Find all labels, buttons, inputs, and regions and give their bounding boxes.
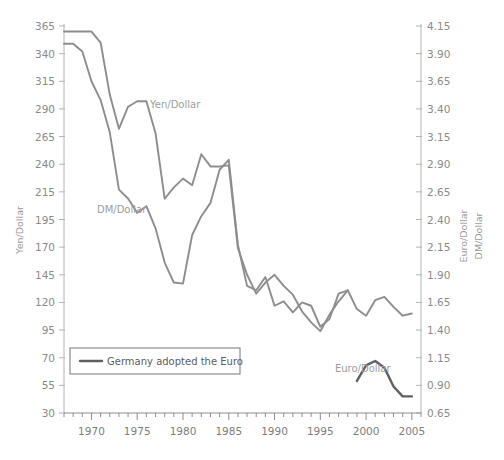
x-axis-tick-label: 1980	[170, 425, 197, 437]
yen-dollar-label: Yen/Dollar	[149, 99, 201, 110]
x-axis-tick-label: 1975	[124, 425, 151, 437]
x-axis-tick-label: 2000	[353, 425, 380, 437]
left-axis-tick-label: 55	[42, 379, 55, 391]
right-axis-tick-label: 4.15	[427, 20, 450, 32]
left-axis-tick-label: 30	[42, 407, 55, 419]
x-axis-tick-label: 2005	[398, 425, 425, 437]
left-axis-tick-label: 215	[35, 186, 55, 198]
right-axis-tick-label: 3.40	[427, 103, 450, 115]
right-axis-title-euro: Euro/Dollar	[458, 209, 469, 262]
euro-dollar-label: Euro/Dollar	[335, 363, 392, 374]
right-axis-tick-label: 1.90	[427, 269, 450, 281]
left-axis-title: Yen/Dollar	[14, 206, 25, 255]
legend-group: Germany adopted the Euro	[70, 348, 243, 374]
right-axis-tick-label: 3.90	[427, 48, 450, 60]
left-axis-tick-label: 315	[35, 75, 55, 87]
series-line-dm-dollar	[64, 44, 348, 327]
left-axis-tick-label: 240	[35, 158, 55, 170]
right-axis-title-dm: DM/Dollar	[473, 212, 484, 259]
right-axis-tick-label: 1.65	[427, 296, 450, 308]
x-axis-tick-label: 1970	[78, 425, 105, 437]
right-axis-tick-label: 0.65	[427, 407, 450, 419]
left-axis-tick-label: 290	[35, 103, 55, 115]
right-axis-tick-label: 2.40	[427, 214, 450, 226]
axis-titles-group: Yen/DollarEuro/DollarDM/Dollar	[14, 206, 484, 262]
left-axis-tick-label: 265	[35, 131, 55, 143]
right-axis-tick-label: 2.65	[427, 186, 450, 198]
left-axis-tick-label: 170	[35, 241, 55, 253]
right-axis-tick-label: 3.15	[427, 131, 450, 143]
right-axis-tick-label: 2.90	[427, 158, 450, 170]
x-axis-tick-label: 1990	[261, 425, 288, 437]
legend-label: Germany adopted the Euro	[107, 356, 243, 367]
series-line-yen-dollar	[64, 32, 412, 332]
x-axis-tick-label: 1985	[215, 425, 242, 437]
series-annotations-group: Yen/DollarDM/DollarEuro/Dollar	[97, 99, 392, 374]
chart-canvas: 3653403152902652402151951701451209570553…	[0, 0, 504, 460]
left-axis-tick-label: 120	[35, 296, 55, 308]
right-axis-tick-label: 3.65	[427, 75, 450, 87]
left-axis-tick-label: 145	[35, 269, 55, 281]
exchange-rate-line-chart: 3653403152902652402151951701451209570553…	[0, 0, 504, 460]
left-axis-tick-label: 95	[42, 324, 55, 336]
x-axis-ticks-group: 19701975198019851990199520002005	[64, 413, 425, 437]
left-axis-tick-label: 365	[35, 20, 55, 32]
right-axis-tick-label: 0.90	[427, 379, 450, 391]
left-axis-ticks-group: 3653403152902652402151951701451209570553…	[35, 20, 65, 419]
right-axis-tick-label: 2.15	[427, 241, 450, 253]
left-axis-tick-label: 70	[42, 352, 55, 364]
dm-dollar-label: DM/Dollar	[97, 204, 147, 215]
left-axis-tick-label: 340	[35, 48, 55, 60]
left-axis-tick-label: 195	[35, 214, 55, 226]
x-axis-tick-label: 1995	[307, 425, 334, 437]
right-axis-tick-label: 1.15	[427, 352, 450, 364]
right-axis-tick-label: 1.40	[427, 324, 450, 336]
